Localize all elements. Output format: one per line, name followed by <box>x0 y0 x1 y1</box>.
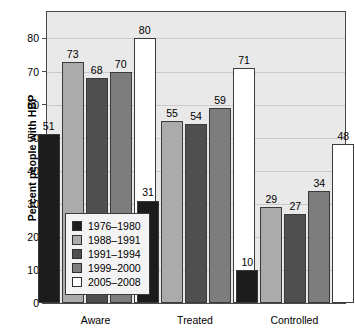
bar-value-label: 34 <box>313 177 325 189</box>
gridline <box>47 38 345 39</box>
bar-value-label: 80 <box>139 24 151 36</box>
legend-swatch-icon <box>72 277 82 287</box>
y-axis-tick <box>42 71 47 73</box>
y-axis-tick-label: 70 <box>27 66 39 78</box>
bar <box>236 270 258 303</box>
y-axis-tick-label: 80 <box>27 32 39 44</box>
y-axis-tick-label: 60 <box>27 99 39 111</box>
legend-item-label: 1999–2000 <box>88 262 141 274</box>
x-axis-group-label: Aware <box>81 314 111 326</box>
legend-item-label: 2005–2008 <box>88 276 141 288</box>
bar-value-label: 55 <box>166 107 178 119</box>
bar-value-label: 54 <box>190 110 202 122</box>
bar-value-label: 70 <box>115 58 127 70</box>
x-axis-group-label: Controlled <box>270 314 318 326</box>
legend-item-label: 1988–1991 <box>88 234 141 246</box>
legend-item-label: 1991–1994 <box>88 248 141 260</box>
bar-value-label: 31 <box>142 186 154 198</box>
y-axis-tick <box>42 38 47 40</box>
legend-item: 1991–1994 <box>72 247 141 261</box>
bar-value-label: 59 <box>214 94 226 106</box>
legend-item-label: 1976–1980 <box>88 220 141 232</box>
bar-value-label: 48 <box>337 130 349 142</box>
bar <box>161 121 183 303</box>
legend-item: 2005–2008 <box>72 275 141 289</box>
bar-value-label: 29 <box>265 193 277 205</box>
bar-value-label: 73 <box>67 48 79 60</box>
bar-value-label: 71 <box>238 54 250 66</box>
plot-area: 0102030405060708051736870803155545971102… <box>46 11 346 304</box>
chart-legend: 1976–19801988–19911991–19941999–20002005… <box>65 213 150 295</box>
x-axis-group-label: Treated <box>177 314 213 326</box>
bar <box>185 124 207 303</box>
bar-value-label: 27 <box>289 200 301 212</box>
bar <box>284 214 306 303</box>
legend-item: 1988–1991 <box>72 233 141 247</box>
bar-value-label: 51 <box>43 120 55 132</box>
bar <box>260 207 282 303</box>
legend-swatch-icon <box>72 221 82 231</box>
legend-item: 1976–1980 <box>72 219 141 233</box>
bar <box>332 144 354 303</box>
bar-chart-figure: Percent people with HBP 0102030405060708… <box>0 0 355 335</box>
y-axis-title: Percent people with HBP <box>26 68 38 248</box>
bar <box>209 108 231 303</box>
legend-swatch-icon <box>72 235 82 245</box>
plot-inner: 0102030405060708051736870803155545971102… <box>47 12 345 303</box>
bar-value-label: 10 <box>241 256 253 268</box>
bar-value-label: 68 <box>91 64 103 76</box>
legend-swatch-icon <box>72 263 82 273</box>
legend-item: 1999–2000 <box>72 261 141 275</box>
bar <box>308 191 330 303</box>
legend-swatch-icon <box>72 249 82 259</box>
bar <box>38 134 60 303</box>
y-axis-tick <box>42 104 47 106</box>
